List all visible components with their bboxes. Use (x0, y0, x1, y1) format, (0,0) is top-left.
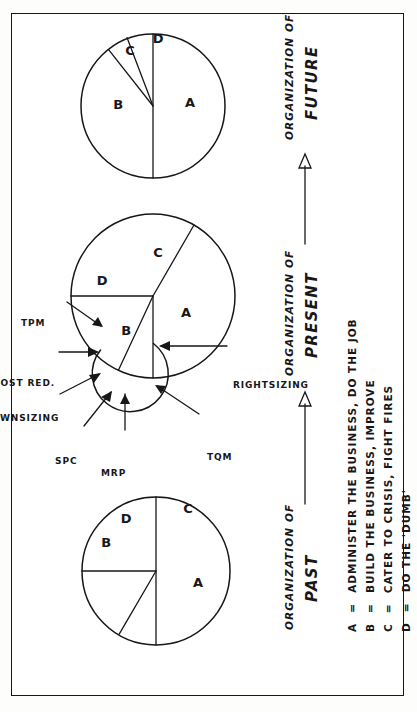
arrow-label-mrp: MRP (101, 468, 126, 478)
future-segment-label-a: A (185, 95, 196, 110)
arrow-label-tpm: TPM (21, 318, 45, 328)
legend-text-c: CATER TO CRISIS, FIGHT FIRES (382, 385, 394, 593)
past-segment-label-c: C (183, 501, 193, 516)
legend-key-c: C (382, 623, 394, 632)
caption-future-line2: FUTURE (303, 46, 321, 120)
past-segment-label-d: D (121, 511, 133, 526)
legend-key-b: B (364, 623, 376, 632)
arrow-label-downsizing: DOWNSIZING (0, 413, 59, 423)
arrow-cost-red (59, 347, 99, 357)
future-segment-label-c: C (125, 43, 135, 58)
rotated-sheet-canvas: A C D B A C D B (11, 13, 404, 696)
legend-text-b: BUILD THE BUSINESS, IMPROVE (364, 379, 376, 593)
legend-eq-d: = (400, 602, 412, 612)
legend-item-b: B = BUILD THE BUSINESS, IMPROVE (359, 379, 378, 632)
present-arrow-group (31, 186, 261, 486)
past-divider-slant (119, 571, 156, 634)
legend-item-c: C = CATER TO CRISIS, FIGHT FIRES (377, 385, 396, 632)
future-segment-label-d: D (153, 31, 165, 46)
arrow-tpm (67, 302, 103, 327)
past-segment-label-a: A (193, 575, 204, 590)
diagram-page: A C D B A C D B (0, 0, 417, 712)
future-segment-label-b: B (113, 97, 124, 112)
arrow-mrp (120, 394, 130, 430)
legend-eq-c: = (382, 603, 394, 613)
legend-text-d: DO THE 'DUMB' (400, 489, 412, 592)
legend-key-d: D (400, 622, 412, 632)
past-pie-svg (71, 456, 271, 656)
legend-eq-a: = (346, 603, 358, 613)
arrow-rightsizing (159, 341, 227, 351)
legend-text-a: ADMINISTER THE BUSINESS, DO THE JOB (346, 318, 358, 592)
caption-present-line1: ORGANIZATION OF (283, 250, 295, 376)
arrow-label-cost-red: COST RED. (0, 378, 55, 388)
arrow-label-spc: SPC (55, 456, 77, 466)
legend-item-a: A = ADMINISTER THE BUSINESS, DO THE JOB (341, 318, 360, 632)
arrow-label-tqm: TQM (207, 452, 232, 462)
arrow-spc (84, 391, 112, 426)
legend-eq-b: = (364, 603, 376, 613)
arrow-downsizing (60, 373, 101, 394)
caption-past-line1: ORGANIZATION OF (283, 504, 295, 630)
caption-arrow-past-to-present (291, 358, 331, 508)
caption-future-line1: ORGANIZATION OF (283, 14, 295, 140)
caption-past-line2: PAST (303, 555, 321, 602)
legend-item-d: D = DO THE 'DUMB' (395, 489, 414, 632)
caption-present-line2: PRESENT (303, 272, 321, 358)
past-segment-label-b: B (101, 535, 112, 550)
arrow-tqm (155, 385, 199, 414)
caption-arrow-present-to-future (291, 108, 331, 248)
future-pie-svg (63, 0, 273, 196)
legend-key-a: A (346, 623, 358, 632)
